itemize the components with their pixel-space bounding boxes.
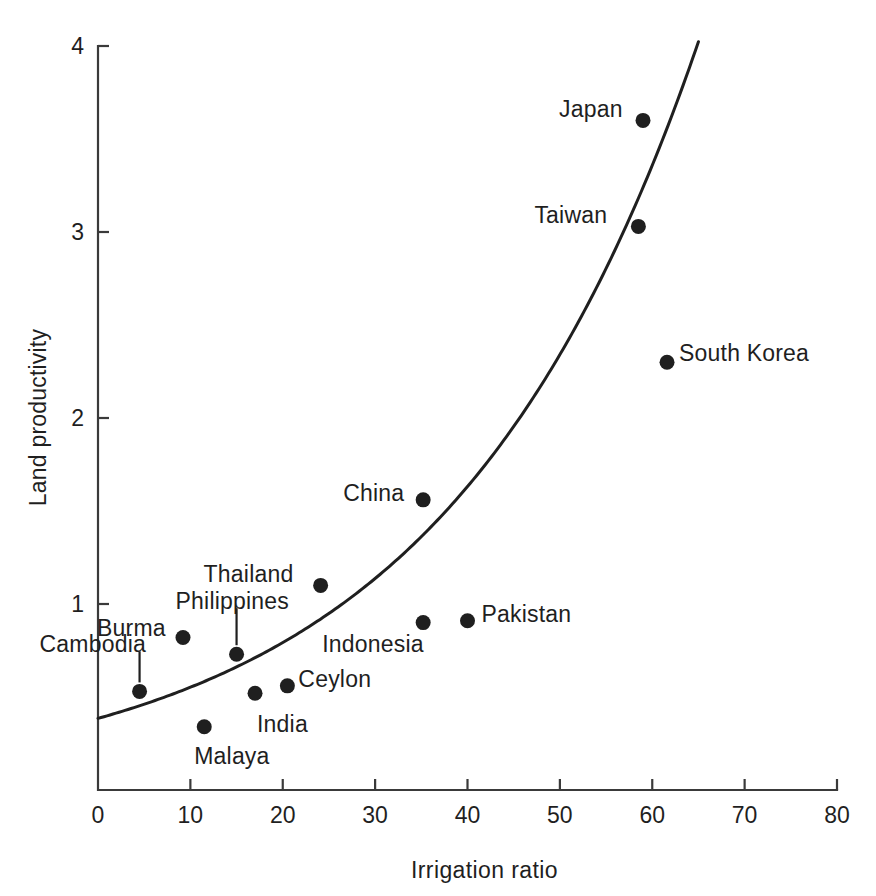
data-point-marker [280,678,295,693]
y-tick-label: 3 [54,219,84,246]
x-tick-label: 70 [732,802,758,829]
data-point-marker [460,613,475,628]
x-tick-label: 60 [639,802,665,829]
x-tick-label: 50 [547,802,573,829]
data-point-marker [416,492,431,507]
data-point-label: Ceylon [298,666,371,693]
x-tick-label: 80 [824,802,850,829]
data-point-marker [197,719,212,734]
data-point-label: India [257,711,308,738]
x-axis-title: Irrigation ratio [411,857,558,884]
y-axis-title: Land productivity [25,308,52,528]
data-point-label: Thailand [204,561,294,588]
x-tick-label: 40 [455,802,481,829]
y-tick-label: 2 [54,405,84,432]
data-point-label: South Korea [679,340,809,367]
data-point-label: Burma [97,615,166,642]
data-point-label: Malaya [194,743,269,770]
data-point-marker [229,647,244,662]
data-point-marker [248,686,263,701]
data-point-label: China [343,480,404,507]
x-tick-label: 0 [92,802,105,829]
x-tick-label: 10 [178,802,204,829]
data-point-marker [132,684,147,699]
chart-container: 010203040506070801234 CambodiaBurmaMalay… [0,0,876,896]
data-point-label: Japan [559,96,623,123]
data-point-marker [175,630,190,645]
y-tick-label: 1 [54,591,84,618]
data-point-marker [313,578,328,593]
x-tick-label: 20 [270,802,296,829]
data-point-marker [416,615,431,630]
data-point-marker [636,113,651,128]
data-point-label: Taiwan [534,202,607,229]
data-point-label: Indonesia [322,631,424,658]
data-point-marker [631,219,646,234]
plot-area [0,0,876,896]
data-point-label: Philippines [176,588,289,615]
x-tick-label: 30 [362,802,388,829]
data-point-marker [660,355,675,370]
y-tick-label: 4 [54,33,84,60]
data-point-label: Pakistan [482,601,572,628]
trend-curve [98,42,698,719]
